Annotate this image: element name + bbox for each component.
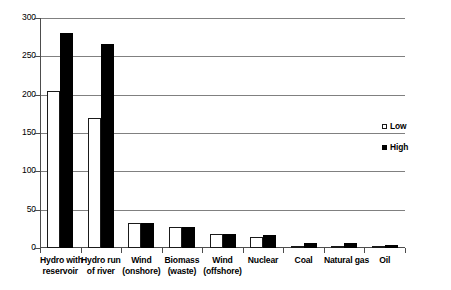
bar-high — [182, 227, 195, 248]
y-axis-tick-label: 50 — [0, 205, 36, 214]
filled-square-swatch — [382, 145, 387, 150]
bar-low — [291, 246, 304, 248]
x-axis-label: Biomass(waste) — [162, 255, 203, 276]
bar-high — [141, 223, 154, 248]
x-axis-label-line: (onshore) — [121, 266, 162, 277]
x-axis-label-line: of river — [81, 266, 122, 277]
bar-high — [344, 243, 357, 248]
x-axis-tick-mark — [324, 248, 325, 253]
legend-item-high: High — [382, 143, 408, 152]
x-axis-label-line: Nuclear — [243, 255, 284, 266]
x-axis-tick-mark — [121, 248, 122, 253]
bar-low — [128, 223, 141, 248]
y-axis-tick-label: 200 — [0, 90, 36, 99]
bar-low — [47, 91, 60, 248]
bar-low — [372, 246, 385, 248]
x-axis-label: Wind(onshore) — [121, 255, 162, 276]
y-axis-tick-label: 250 — [0, 51, 36, 60]
bar-high — [60, 33, 73, 248]
x-axis-label-line: Hydro run — [81, 255, 122, 266]
legend-item-low: Low — [382, 122, 408, 131]
x-axis-label-line: Wind — [121, 255, 162, 266]
x-axis-label-line: Oil — [364, 255, 405, 266]
x-axis-label: Natural gas — [324, 255, 365, 266]
bar-high — [101, 44, 114, 248]
bar-low — [88, 118, 101, 248]
bar-high — [223, 234, 236, 248]
x-axis-label-line: Natural gas — [324, 255, 365, 266]
x-axis-tick-mark — [405, 248, 406, 253]
y-axis-tick-label: 300 — [0, 13, 36, 22]
x-axis-label: Oil — [364, 255, 405, 266]
x-axis-label-line: Hydro with — [40, 255, 81, 266]
y-axis-tick-label: 100 — [0, 166, 36, 175]
legend-label-high: High — [390, 143, 408, 152]
x-axis-label: Nuclear — [243, 255, 284, 266]
x-axis-tick-mark — [283, 248, 284, 253]
x-axis-tick-mark — [81, 248, 82, 253]
x-axis-tick-mark — [202, 248, 203, 253]
x-axis-label: Wind(offshore) — [202, 255, 243, 276]
x-axis-tick-mark — [364, 248, 365, 253]
legend-label-low: Low — [390, 122, 406, 131]
bar-chart: 050100150200250300 Hydro withreservoirHy… — [0, 0, 451, 290]
x-axis-label-line: (offshore) — [202, 266, 243, 277]
x-axis-label: Hydro withreservoir — [40, 255, 81, 276]
hollow-square-swatch — [382, 124, 387, 129]
bar-high — [304, 243, 317, 248]
x-axis-label-line: Biomass — [162, 255, 203, 266]
x-axis-tick-mark — [243, 248, 244, 253]
x-axis-label: Coal — [283, 255, 324, 266]
bar-high — [385, 245, 398, 248]
bar-high — [263, 235, 276, 248]
bar-low — [210, 234, 223, 248]
x-axis-tick-mark — [40, 248, 41, 253]
x-axis-label-line: reservoir — [40, 266, 81, 277]
y-axis-tick-label: 150 — [0, 128, 36, 137]
x-axis-label: Hydro runof river — [81, 255, 122, 276]
x-axis-tick-mark — [162, 248, 163, 253]
y-axis-tick-label: 0 — [0, 243, 36, 252]
bar-low — [331, 246, 344, 248]
bars-layer — [40, 18, 405, 248]
x-axis-label-line: Wind — [202, 255, 243, 266]
bar-low — [250, 237, 263, 248]
chart-legend: Low High — [382, 122, 408, 164]
bar-low — [169, 227, 182, 248]
x-axis-label-line: (waste) — [162, 266, 203, 277]
x-axis-label-line: Coal — [283, 255, 324, 266]
